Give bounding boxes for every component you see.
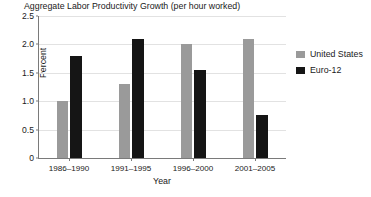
x-tick-label: 2001–2005 bbox=[235, 164, 276, 173]
x-tick-mark bbox=[131, 158, 132, 161]
x-tick-label: 1986–1990 bbox=[49, 164, 90, 173]
x-axis-ticks-group: 1986–19901991–19951996–20002001–2005 bbox=[38, 16, 286, 158]
y-tick-label: 2.5 bbox=[22, 12, 34, 21]
x-tick-label: 1991–1995 bbox=[111, 164, 152, 173]
chart-figure: Aggregate Labor Productivity Growth (per… bbox=[0, 0, 371, 197]
y-tick-label: 2.0 bbox=[22, 40, 34, 49]
legend-swatch-icon bbox=[296, 51, 305, 58]
x-tick-mark bbox=[69, 158, 70, 161]
legend: United StatesEuro-12 bbox=[296, 50, 368, 82]
y-tick-label: 0.5 bbox=[22, 125, 34, 134]
x-axis-title: Year bbox=[38, 176, 286, 186]
chart-title: Aggregate Labor Productivity Growth (per… bbox=[24, 1, 240, 12]
x-tick-mark bbox=[255, 158, 256, 161]
legend-label: Euro-12 bbox=[310, 66, 341, 75]
x-tick-label: 1996–2000 bbox=[173, 164, 214, 173]
legend-swatch-icon bbox=[296, 67, 305, 74]
legend-item: Euro-12 bbox=[296, 66, 368, 75]
clipped-caption bbox=[8, 190, 308, 197]
plot-area: Percent 00.51.01.52.02.5 1986–19901991–1… bbox=[38, 16, 286, 158]
x-tick-mark bbox=[193, 158, 194, 161]
y-tick-label: 1.0 bbox=[22, 97, 34, 106]
y-tick-label: 1.5 bbox=[22, 69, 34, 78]
y-tick-label: 0 bbox=[29, 154, 34, 163]
legend-label: United States bbox=[310, 50, 363, 59]
x-axis-line bbox=[38, 158, 286, 159]
legend-item: United States bbox=[296, 50, 368, 59]
